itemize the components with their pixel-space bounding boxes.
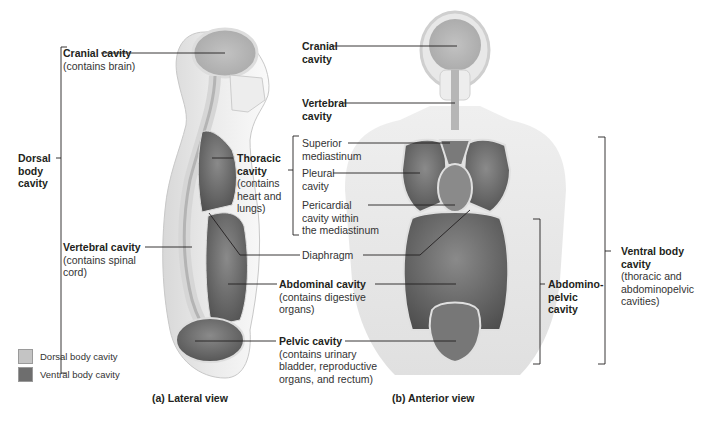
lateral-pelvic-cavity xyxy=(176,318,244,362)
ant-cranial-line1: Cranial xyxy=(302,40,338,53)
abdpel-line2: pelvic xyxy=(548,291,603,304)
dorsal-line3: cavity xyxy=(18,177,51,190)
label-superior-mediastinum: Superior mediastinum xyxy=(302,137,362,162)
legend-item-dorsal: Dorsal body cavity xyxy=(18,349,118,364)
dorsal-swatch xyxy=(18,349,33,364)
ventral-note1: (thoracic and xyxy=(621,270,694,283)
label-pleural-cavity: Pleural cavity xyxy=(302,167,335,192)
dorsal-line1: Dorsal xyxy=(18,152,51,165)
lateral-abdominal-cavity xyxy=(206,213,248,326)
legend-dorsal-label: Dorsal body cavity xyxy=(40,351,118,362)
ventral-note3: cavities) xyxy=(621,295,694,308)
thoracic-title2: cavity xyxy=(237,165,281,178)
caption-lateral-view: (a) Lateral view xyxy=(152,392,228,404)
abdominal-title: Abdominal cavity xyxy=(279,278,366,291)
ventral-note2: abdominopelvic xyxy=(621,283,694,296)
label-dorsal-body-cavity: Dorsal body cavity xyxy=(18,152,51,190)
pericardial-line3: the mediastinum xyxy=(302,224,379,237)
label-diaphragm: Diaphragm xyxy=(302,249,353,262)
pelvic-note2: bladder, reproductive xyxy=(279,360,377,373)
ant-vertebral-line1: Vertebral xyxy=(302,97,347,110)
abdpel-line1: Abdomino- xyxy=(548,278,603,291)
label-ventral-body-cavity: Ventral body cavity (thoracic and abdomi… xyxy=(621,245,694,308)
pelvic-note3: organs, and rectum) xyxy=(279,373,377,386)
sup-med-line2: mediastinum xyxy=(302,150,362,163)
label-pelvic-cavity: Pelvic cavity (contains urinary bladder,… xyxy=(279,335,377,385)
ventral-title2: cavity xyxy=(621,258,694,271)
label-pericardial-cavity: Pericardial cavity within the mediastinu… xyxy=(302,199,379,237)
vertebral-note1: (contains spinal xyxy=(63,254,141,267)
ant-cranial-line2: cavity xyxy=(302,53,338,66)
thoracic-title1: Thoracic xyxy=(237,152,281,165)
pericardial-line1: Pericardial xyxy=(302,199,379,212)
label-anterior-vertebral-cavity: Vertebral cavity xyxy=(302,97,347,122)
legend-item-ventral: Ventral body cavity xyxy=(18,367,120,382)
thoracic-note2: heart and xyxy=(237,190,281,203)
pelvic-note1: (contains urinary xyxy=(279,348,377,361)
pelvic-title: Pelvic cavity xyxy=(279,335,377,348)
pleural-line2: cavity xyxy=(302,180,335,193)
thoracic-note3: lungs) xyxy=(237,202,281,215)
sup-med-line1: Superior xyxy=(302,137,362,150)
pericardial-line2: cavity within xyxy=(302,212,379,225)
label-lateral-vertebral-cavity: Vertebral cavity (contains spinal cord) xyxy=(63,241,141,279)
caption-anterior-view: (b) Anterior view xyxy=(392,392,474,404)
label-thoracic-cavity: Thoracic cavity (contains heart and lung… xyxy=(237,152,281,215)
label-anterior-cranial-cavity: Cranial cavity xyxy=(302,40,338,65)
anterior-vertebral-cavity xyxy=(451,70,459,130)
dorsal-line2: body xyxy=(18,165,51,178)
diaphragm-text: Diaphragm xyxy=(302,249,353,262)
pleural-line1: Pleural xyxy=(302,167,335,180)
abdominal-note1: (contains digestive xyxy=(279,291,366,304)
vertebral-title: Vertebral cavity xyxy=(63,241,141,254)
label-lateral-cranial-cavity: Cranial cavity (contains brain) xyxy=(63,47,135,72)
abdpel-line3: cavity xyxy=(548,303,603,316)
thoracic-note1: (contains xyxy=(237,177,281,190)
ventral-swatch xyxy=(18,367,33,382)
legend-ventral-label: Ventral body cavity xyxy=(40,369,120,380)
cranial-title: Cranial cavity xyxy=(63,47,135,60)
label-abdominopelvic-cavity: Abdomino- pelvic cavity xyxy=(548,278,603,316)
ant-vertebral-line2: cavity xyxy=(302,110,347,123)
cranial-note: (contains brain) xyxy=(63,60,135,73)
anterior-cranial-cavity xyxy=(429,19,481,71)
label-abdominal-cavity: Abdominal cavity (contains digestive org… xyxy=(279,278,366,316)
abdominal-note2: organs) xyxy=(279,303,366,316)
vertebral-note2: cord) xyxy=(63,266,141,279)
ventral-title1: Ventral body xyxy=(621,245,694,258)
